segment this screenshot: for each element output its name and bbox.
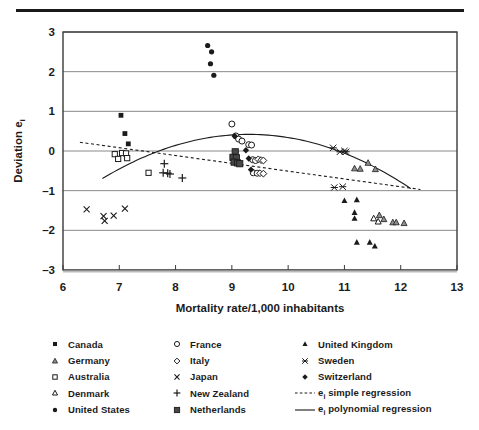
- legend-item[interactable]: New Zealand: [164, 385, 296, 401]
- legend-symbol-asterisk: [294, 355, 316, 367]
- open-square-icon: [42, 369, 68, 385]
- marker-cross-x: [102, 218, 108, 224]
- marker-asterisk: [331, 184, 338, 190]
- legend-item[interactable]: United Kingdom: [292, 336, 467, 352]
- marker-cross-x: [174, 374, 179, 379]
- dotted-line-icon: [292, 385, 318, 401]
- legend-item[interactable]: Denmark: [42, 385, 170, 401]
- marker-filled-square-lg: [174, 407, 179, 412]
- chart-legend: CanadaGermanyAustraliaDenmarkUnited Stat…: [42, 336, 462, 420]
- legend-symbol-solid-line: [294, 404, 316, 416]
- y-tick-label: 2: [49, 66, 55, 78]
- marker-filled-triangle: [367, 239, 373, 245]
- marker-gray-triangle: [52, 358, 57, 363]
- marker-plus: [178, 174, 186, 182]
- series-sweden: [330, 145, 350, 191]
- legend-item-label: Japan: [190, 371, 218, 382]
- legend-item[interactable]: Sweden: [292, 352, 467, 368]
- legend-item[interactable]: Italy: [164, 352, 296, 368]
- marker-plus: [160, 160, 168, 168]
- legend-item[interactable]: Netherlands: [164, 402, 296, 418]
- marker-filled-circle: [209, 49, 214, 54]
- series-italy: [255, 156, 267, 177]
- y-tick-label: –2: [42, 224, 55, 236]
- legend-item-label: United Kingdom: [318, 339, 393, 350]
- legend-item-label: Netherlands: [190, 404, 246, 415]
- marker-open-circle: [174, 342, 179, 347]
- marker-filled-square: [53, 342, 57, 346]
- marker-filled-triangle: [352, 215, 358, 221]
- marker-filled-triangle: [372, 243, 378, 249]
- marker-gray-triangle: [357, 166, 363, 172]
- marker-filled-diamond: [302, 374, 307, 379]
- plus-icon: [164, 385, 190, 401]
- marker-open-circle: [249, 142, 255, 148]
- legend-symbol-filled-circle: [44, 404, 66, 416]
- marker-filled-circle: [211, 73, 216, 78]
- solid-line-icon: [292, 402, 318, 418]
- legend-item-label: Germany: [68, 355, 110, 366]
- marker-gray-triangle: [376, 212, 382, 218]
- legend-item-label: France: [190, 339, 222, 350]
- legend-item[interactable]: France: [164, 336, 296, 352]
- legend-column-2: FranceItalyJapanNew ZealandNetherlands: [164, 336, 296, 418]
- marker-open-diamond: [174, 358, 180, 364]
- legend-item[interactable]: Switzerland: [292, 369, 467, 385]
- x-tick-label: 12: [394, 281, 407, 293]
- legend-symbol-plus: [166, 387, 188, 399]
- y-tick-label: –3: [42, 264, 55, 276]
- marker-open-circle: [229, 121, 235, 127]
- legend-item[interactable]: United States: [42, 402, 170, 418]
- marker-asterisk: [330, 145, 337, 151]
- marker-asterisk: [302, 358, 308, 363]
- marker-open-square: [146, 170, 151, 175]
- legend-symbol-gray-triangle: [44, 355, 66, 367]
- marker-filled-circle: [208, 61, 213, 66]
- marker-cross-x: [111, 213, 117, 219]
- legend-symbol-filled-square-lg: [166, 404, 188, 416]
- legend-item-label: Australia: [68, 371, 110, 382]
- marker-asterisk: [339, 184, 346, 190]
- marker-cross-x: [122, 206, 128, 212]
- legend-item[interactable]: Australia: [42, 369, 170, 385]
- x-tick-label: 10: [282, 281, 295, 293]
- legend-item[interactable]: Germany: [42, 352, 170, 368]
- marker-filled-triangle: [341, 197, 347, 203]
- marker-filled-circle: [53, 408, 57, 412]
- marker-filled-triangle: [354, 197, 360, 203]
- legend-item[interactable]: Japan: [164, 369, 296, 385]
- open-circle-icon: [164, 336, 190, 352]
- legend-item[interactable]: Canada: [42, 336, 170, 352]
- legend-item-label: Sweden: [318, 355, 355, 366]
- filled-square-icon: [42, 336, 68, 352]
- series-canada: [119, 113, 131, 146]
- x-tick-label: 8: [172, 281, 179, 293]
- legend-item[interactable]: ei simple regression: [292, 385, 467, 401]
- y-tick-label: –1: [42, 185, 55, 197]
- x-tick-label: 9: [229, 281, 235, 293]
- series-united-kingdom: [341, 197, 377, 249]
- series-united-states: [205, 43, 216, 78]
- legend-symbol-open-square: [44, 371, 66, 383]
- legend-item[interactable]: ei polynomial regression: [292, 402, 467, 418]
- series-new-zealand: [159, 160, 186, 182]
- legend-item-label: Canada: [68, 339, 103, 350]
- marker-filled-square: [126, 141, 131, 146]
- y-axis-title: Deviation ei: [12, 119, 27, 183]
- legend-item-label: Switzerland: [318, 371, 372, 382]
- filled-diamond-icon: [292, 369, 318, 385]
- marker-filled-square: [123, 131, 128, 136]
- legend-symbol-dotted-line: [294, 387, 316, 399]
- filled-circle-icon: [42, 402, 68, 418]
- marker-cross-x: [84, 206, 90, 212]
- y-tick-label: 3: [49, 26, 55, 38]
- legend-item-label-rest: simple regression: [325, 387, 411, 398]
- data-points: [84, 43, 407, 249]
- legend-symbol-filled-diamond: [294, 371, 316, 383]
- legend-column-3: United KingdomSwedenSwitzerlandei simple…: [292, 336, 467, 418]
- marker-filled-triangle: [354, 239, 360, 245]
- y-axis-title-sub: i: [18, 119, 27, 121]
- marker-filled-square: [119, 113, 124, 118]
- x-tick-label: 13: [451, 281, 464, 293]
- gray-triangle-icon: [42, 352, 68, 368]
